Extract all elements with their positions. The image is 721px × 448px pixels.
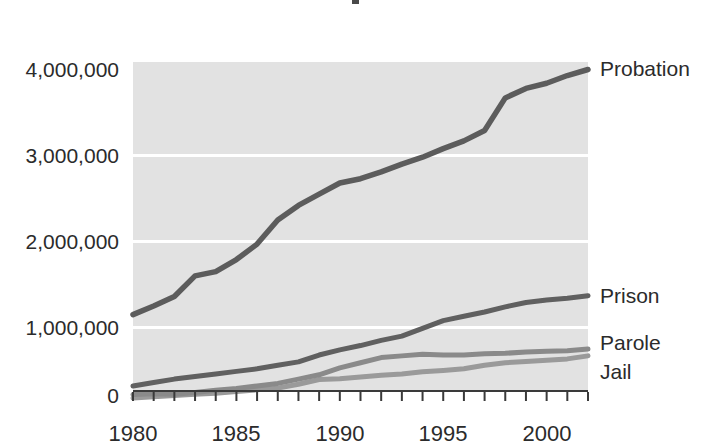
- y-tick-label-4000000: 4,000,000: [26, 58, 119, 81]
- x-tick-label-1980: 1980: [109, 421, 158, 446]
- y-tick-label-3000000: 3,000,000: [26, 144, 119, 167]
- paper-texture: [133, 62, 588, 390]
- y-tick-label-0: 0: [107, 384, 119, 407]
- series-label-parole: Parole: [600, 331, 661, 354]
- series-label-probation: Probation: [600, 57, 690, 80]
- x-tick-label-1985: 1985: [212, 421, 261, 446]
- cropped-title-fragment: [352, 0, 359, 4]
- x-tick-label-2000: 2000: [523, 421, 572, 446]
- x-tick-label-1995: 1995: [419, 421, 468, 446]
- series-label-prison: Prison: [600, 284, 660, 307]
- y-tick-label-2000000: 2,000,000: [26, 230, 119, 253]
- y-tick-label-1000000: 1,000,000: [26, 316, 119, 339]
- series-label-jail: Jail: [600, 360, 632, 383]
- line-chart-correctional-populations: 4,000,000 3,000,000 2,000,000 1,000,000 …: [0, 0, 721, 448]
- x-tick-label-1990: 1990: [316, 421, 365, 446]
